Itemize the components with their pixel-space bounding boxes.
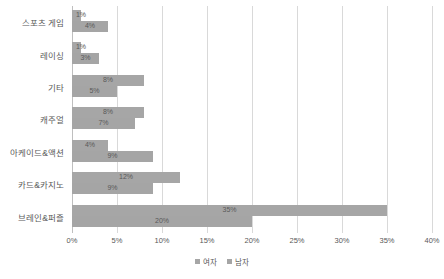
bar-rows: 1%4%1%3%8%5%8%7%4%9%12%9%35%20% — [72, 6, 432, 233]
bar-track: 1% — [72, 10, 432, 21]
x-tick-label: 25% — [289, 236, 304, 245]
bar-value-label: 12% — [119, 171, 133, 182]
bar-track: 4% — [72, 21, 432, 32]
category-label: 브레인&퍼즐 — [18, 201, 64, 233]
bar-group: 4%9% — [72, 136, 432, 168]
gridline-40% — [432, 6, 433, 233]
category-axis: 스포츠 게임레이싱기타캐주얼아케이드&액션카드&카지노브레인&퍼즐 — [0, 6, 68, 233]
bar-value-label: 1% — [76, 41, 86, 52]
bar-value-label: 1% — [76, 9, 86, 20]
bar-value-label: 5% — [89, 85, 99, 96]
value-axis: 0%5%10%15%20%25%30%35%40% — [72, 233, 432, 251]
bar-track: 5% — [72, 86, 432, 97]
x-tick-label: 10% — [154, 236, 169, 245]
x-tick-label: 5% — [112, 236, 123, 245]
category-label: 레이싱 — [40, 38, 64, 70]
category-label: 캐주얼 — [40, 103, 64, 135]
bar-group: 8%7% — [72, 103, 432, 135]
bar-value-label: 8% — [103, 74, 113, 85]
legend-label: 여자 — [203, 256, 217, 267]
legend-label: 남자 — [235, 256, 249, 267]
category-label: 카드&카지노 — [18, 168, 64, 200]
legend-item-남자[interactable]: 남자 — [227, 256, 249, 267]
bar-value-label: 4% — [85, 139, 95, 150]
category-label: 아케이드&액션 — [10, 136, 64, 168]
bar-value-label: 7% — [98, 117, 108, 128]
bar-value-label: 9% — [107, 182, 117, 193]
bar-value-label: 20% — [155, 215, 169, 226]
x-tick-label: 0% — [67, 236, 78, 245]
plot-area: 1%4%1%3%8%5%8%7%4%9%12%9%35%20% — [72, 6, 432, 233]
bar-track: 1% — [72, 42, 432, 53]
category-label: 기타 — [48, 71, 64, 103]
bar-value-label: 9% — [107, 150, 117, 161]
bar-value-label: 3% — [80, 52, 90, 63]
x-tick-label: 15% — [199, 236, 214, 245]
bar-track: 8% — [72, 75, 432, 86]
x-tick-label: 40% — [424, 236, 439, 245]
legend: 여자남자 — [0, 256, 444, 267]
bar-track: 12% — [72, 172, 432, 183]
x-tick-label: 35% — [379, 236, 394, 245]
x-tick-label: 30% — [334, 236, 349, 245]
bar-group: 1%3% — [72, 38, 432, 70]
bar-value-label: 35% — [222, 204, 236, 215]
category-label: 스포츠 게임 — [22, 6, 64, 38]
bar-group: 12%9% — [72, 168, 432, 200]
bar-track: 35% — [72, 205, 432, 216]
bar-group: 8%5% — [72, 71, 432, 103]
bar-group: 35%20% — [72, 201, 432, 233]
x-tick-label: 20% — [244, 236, 259, 245]
bar-chart: 스포츠 게임레이싱기타캐주얼아케이드&액션카드&카지노브레인&퍼즐 1%4%1%… — [0, 0, 444, 279]
bar-track: 9% — [72, 151, 432, 162]
bar-track: 8% — [72, 107, 432, 118]
bar-track: 20% — [72, 216, 432, 227]
bar-track: 3% — [72, 53, 432, 64]
bar-value-label: 4% — [85, 20, 95, 31]
bar-group: 1%4% — [72, 6, 432, 38]
bar-track: 9% — [72, 183, 432, 194]
bar-track: 7% — [72, 118, 432, 129]
legend-swatch-icon — [227, 259, 232, 264]
bar-track: 4% — [72, 140, 432, 151]
bar-value-label: 8% — [103, 106, 113, 117]
legend-swatch-icon — [195, 259, 200, 264]
legend-item-여자[interactable]: 여자 — [195, 256, 217, 267]
